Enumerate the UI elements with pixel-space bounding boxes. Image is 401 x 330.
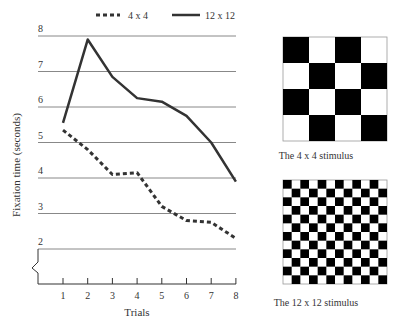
x-tick-label: 1 <box>61 290 66 301</box>
x-tick-label: 8 <box>233 290 238 301</box>
y-axis-break <box>32 249 38 284</box>
stimulus-12x12-square <box>326 241 335 250</box>
stimulus-12x12-square <box>335 249 344 258</box>
stimulus-12x12-square <box>283 197 292 206</box>
y-tick-label: 8 <box>38 23 43 34</box>
stimulus-12x12-square <box>292 275 301 284</box>
stimulus-12x12-square <box>292 223 301 232</box>
stimulus-12x12-square <box>318 232 327 241</box>
x-tick-label: 2 <box>85 290 90 301</box>
stimulus-12x12-square <box>309 189 318 198</box>
legend-label-4x4: 4 x 4 <box>128 10 148 21</box>
stimulus-12x12-square <box>361 206 370 215</box>
stimulus-12x12-square <box>309 223 318 232</box>
stimulus-12x12-square <box>352 267 361 276</box>
x-tick-label: 5 <box>159 290 164 301</box>
stimulus-12x12-square <box>344 189 353 198</box>
series-line-4x4 <box>63 130 236 238</box>
y-tick-label: 4 <box>38 165 43 176</box>
stimulus-12x12-square <box>335 197 344 206</box>
caption-12x12: The 12 x 12 stimulus <box>256 297 376 308</box>
stimulus-12x12-square <box>326 206 335 215</box>
line-chart: 234567812345678TrialsFixation time (seco… <box>0 0 401 330</box>
stimulus-12x12-square <box>300 249 309 258</box>
stimulus-12x12-square <box>370 215 379 224</box>
stimulus-4x4-square <box>309 115 335 141</box>
stimulus-12x12-square <box>344 241 353 250</box>
stimulus-12x12-square <box>361 275 370 284</box>
stimulus-12x12-square <box>300 267 309 276</box>
stimulus-12x12-square <box>300 180 309 189</box>
stimulus-12x12-square <box>318 197 327 206</box>
y-tick-label: 7 <box>38 59 43 70</box>
y-tick-label: 2 <box>38 236 43 247</box>
stimulus-12x12-square <box>335 180 344 189</box>
stimulus-12x12-square <box>309 206 318 215</box>
stimulus-12x12-square <box>378 275 387 284</box>
stimulus-12x12-square <box>326 275 335 284</box>
stimulus-4x4-square <box>283 37 309 63</box>
stimulus-12x12-square <box>283 180 292 189</box>
stimulus-12x12-square <box>318 267 327 276</box>
stimulus-12x12-square <box>370 249 379 258</box>
stimulus-12x12-square <box>318 249 327 258</box>
stimulus-12x12-square <box>352 180 361 189</box>
y-tick-label: 5 <box>38 130 43 141</box>
stimulus-12x12-square <box>352 197 361 206</box>
stimulus-12x12-square <box>335 232 344 241</box>
stimulus-12x12-square <box>318 180 327 189</box>
y-tick-label: 3 <box>38 201 43 212</box>
stimulus-12x12-square <box>326 189 335 198</box>
stimulus-12x12-square <box>370 180 379 189</box>
stimulus-12x12-square <box>352 249 361 258</box>
stimulus-12x12-square <box>378 189 387 198</box>
stimulus-12x12-square <box>283 267 292 276</box>
stimulus-12x12-square <box>370 232 379 241</box>
stimulus-12x12-square <box>361 241 370 250</box>
stimulus-12x12-square <box>309 258 318 267</box>
stimulus-12x12-square <box>378 258 387 267</box>
stimulus-12x12-square <box>370 267 379 276</box>
stimulus-12x12-square <box>292 206 301 215</box>
y-axis-label: Fixation time (seconds) <box>10 113 23 217</box>
x-tick-label: 4 <box>135 290 140 301</box>
stimulus-4x4-square <box>335 89 361 115</box>
stimulus-12x12-square <box>361 189 370 198</box>
stimulus-12x12-square <box>344 206 353 215</box>
stimulus-12x12-square <box>335 267 344 276</box>
stimulus-12x12-square <box>326 258 335 267</box>
stimulus-12x12-square <box>370 197 379 206</box>
series-line-12x12 <box>63 40 236 182</box>
stimulus-12x12-square <box>300 215 309 224</box>
stimulus-4x4-square <box>361 63 387 89</box>
stimulus-12x12-square <box>283 249 292 258</box>
caption-4x4: The 4 x 4 stimulus <box>256 150 376 161</box>
stimulus-12x12-square <box>326 223 335 232</box>
stimulus-12x12-square <box>283 215 292 224</box>
stimulus-4x4-square <box>361 115 387 141</box>
y-tick-label: 6 <box>38 94 43 105</box>
stimulus-4x4-square <box>309 63 335 89</box>
stimulus-12x12-square <box>309 275 318 284</box>
stimulus-4x4-square <box>283 89 309 115</box>
stimulus-12x12-square <box>378 241 387 250</box>
stimulus-12x12-square <box>292 241 301 250</box>
x-axis-label: Trials <box>124 306 149 318</box>
x-tick-label: 3 <box>110 290 115 301</box>
stimulus-12x12-square <box>335 215 344 224</box>
stimulus-12x12-square <box>352 215 361 224</box>
stimulus-12x12-square <box>318 215 327 224</box>
stimulus-12x12-square <box>378 223 387 232</box>
stimulus-12x12-square <box>300 197 309 206</box>
stimulus-12x12-square <box>344 223 353 232</box>
stimulus-12x12-square <box>292 189 301 198</box>
stimulus-12x12-square <box>344 258 353 267</box>
stimulus-12x12-square <box>361 223 370 232</box>
stimulus-12x12-square <box>361 258 370 267</box>
stimulus-12x12-square <box>344 275 353 284</box>
stimulus-12x12-square <box>300 232 309 241</box>
stimulus-12x12-square <box>283 232 292 241</box>
stimulus-12x12-square <box>352 232 361 241</box>
stimulus-12x12-square <box>378 206 387 215</box>
x-tick-label: 7 <box>209 290 214 301</box>
